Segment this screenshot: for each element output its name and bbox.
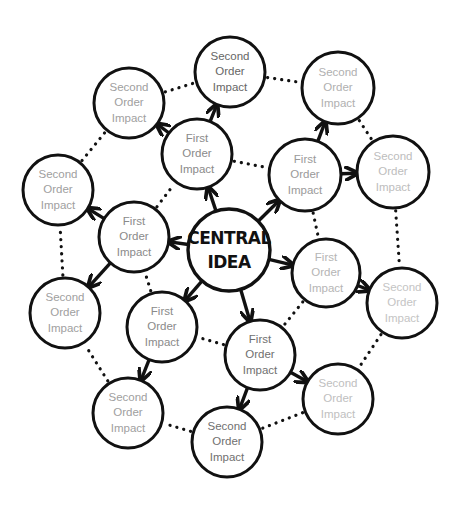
- arrow-icon: [141, 360, 149, 380]
- node-label-line: Order: [378, 165, 408, 177]
- second-order-node-s-right: SecondOrderImpact: [367, 268, 437, 338]
- node-label-line: Impact: [111, 422, 146, 434]
- second-order-node-s-right-upper: SecondOrderImpact: [357, 136, 429, 208]
- node-label-line: Order: [113, 406, 143, 418]
- dotted-link-s-right-upper-s-right: [396, 211, 400, 265]
- node-label-line: Second: [207, 420, 246, 432]
- dotted-link-s-bottom-s-bottom-left: [164, 424, 190, 432]
- nodes: CENTRALIDEAFirstOrderImpactFirstOrderImp…: [23, 37, 437, 477]
- dotted-link-f-lower-left-f-left: [145, 273, 150, 290]
- node-label-line: Order: [43, 183, 73, 195]
- node-label-line: First: [315, 251, 338, 263]
- node-label-line: Order: [323, 81, 353, 93]
- node-label-line: Impact: [210, 451, 245, 463]
- dotted-link-f-left-f-upper-left: [157, 184, 174, 206]
- node-label-line: Second: [45, 291, 84, 303]
- arrow-icon: [290, 372, 306, 381]
- node-label-line: Order: [114, 96, 144, 108]
- node-circle: [188, 209, 270, 291]
- arrow-icon: [318, 123, 325, 142]
- node-label-line: Second: [108, 391, 147, 403]
- node-label-line: Order: [311, 266, 341, 278]
- node-label-line: First: [249, 333, 272, 345]
- node-label-line: Second: [109, 81, 148, 93]
- second-order-node-s-lower-left: SecondOrderImpact: [30, 278, 100, 348]
- node-label-line: Impact: [41, 199, 76, 211]
- first-order-node-f-left: FirstOrderImpact: [99, 202, 169, 272]
- node-label-line: First: [186, 132, 209, 144]
- first-order-node-f-lower-left: FirstOrderImpact: [127, 292, 197, 362]
- node-label-line: Order: [245, 348, 275, 360]
- node-label-line: Order: [50, 306, 80, 318]
- arrow-icon: [158, 125, 169, 133]
- mind-map-diagram: CENTRALIDEAFirstOrderImpactFirstOrderImp…: [0, 0, 459, 510]
- node-label-line: Second: [373, 150, 412, 162]
- central-node-central: CENTRALIDEA: [187, 209, 271, 291]
- dotted-link-s-lower-left-s-left: [60, 228, 63, 275]
- dotted-link-s-upper-left-s-top: [165, 83, 193, 92]
- node-label-line: CENTRAL: [187, 228, 271, 248]
- node-label-line: First: [294, 153, 317, 165]
- node-label-line: Impact: [145, 336, 180, 348]
- arrow-icon: [89, 209, 105, 219]
- second-order-node-s-upper-right: SecondOrderImpact: [302, 52, 374, 124]
- node-label-line: Impact: [117, 246, 152, 258]
- node-label-line: Impact: [321, 408, 356, 420]
- node-label-line: Order: [182, 147, 212, 159]
- arrow-icon: [358, 285, 369, 289]
- first-order-node-f-upper-right: FirstOrderImpact: [269, 139, 341, 211]
- second-order-node-s-upper-left: SecondOrderImpact: [94, 68, 164, 138]
- second-order-node-s-bottom-left: SecondOrderImpact: [93, 378, 163, 448]
- node-label-line: Second: [318, 66, 357, 78]
- node-label-line: Impact: [321, 97, 356, 109]
- dotted-link-s-bottom-left-s-lower-left: [85, 345, 107, 381]
- node-label-line: Impact: [376, 181, 411, 193]
- node-label-line: IDEA: [207, 252, 252, 272]
- arrow-icon: [210, 105, 216, 121]
- node-label-line: Impact: [180, 163, 215, 175]
- node-label-line: Order: [323, 392, 353, 404]
- node-label-line: Impact: [112, 112, 147, 124]
- node-label-line: Second: [38, 168, 77, 180]
- arrow-icon: [186, 281, 202, 300]
- node-label-line: First: [151, 305, 174, 317]
- node-label-line: Second: [318, 377, 357, 389]
- dotted-link-s-upper-right-s-right-upper: [359, 121, 371, 140]
- dotted-link-s-top-s-upper-right: [268, 78, 300, 83]
- dotted-link-f-right-f-bottom: [284, 302, 303, 326]
- dotted-link-s-right-s-bottom-right: [359, 335, 381, 368]
- first-order-node-f-bottom: FirstOrderImpact: [225, 320, 295, 390]
- dotted-link-f-upper-left-f-upper-right: [234, 161, 266, 167]
- node-label-line: Second: [382, 281, 421, 293]
- arrow-icon: [341, 173, 356, 174]
- node-label-line: Order: [147, 320, 177, 332]
- arrow-icon: [269, 259, 292, 264]
- dotted-link-s-bottom-right-s-bottom: [262, 413, 302, 429]
- node-label-line: Impact: [243, 364, 278, 376]
- second-order-node-s-top: SecondOrderImpact: [195, 37, 265, 107]
- node-label-line: Second: [210, 50, 249, 62]
- node-label-line: Order: [290, 168, 320, 180]
- node-label-line: Order: [387, 296, 417, 308]
- node-label-line: Impact: [385, 312, 420, 324]
- node-label-line: Impact: [48, 322, 83, 334]
- first-order-node-f-upper-left: FirstOrderImpact: [162, 119, 232, 189]
- arrow-icon: [241, 289, 250, 320]
- node-label-line: Impact: [213, 81, 248, 93]
- arrow-icon: [170, 242, 189, 245]
- arrow-icon: [240, 388, 248, 409]
- node-label-line: Order: [119, 230, 149, 242]
- node-label-line: Impact: [288, 184, 323, 196]
- second-order-node-s-bottom-right: SecondOrderImpact: [303, 364, 373, 434]
- dotted-link-f-upper-right-f-right: [313, 213, 318, 237]
- first-order-node-f-right: FirstOrderImpact: [292, 239, 360, 307]
- node-label-line: Order: [215, 65, 245, 77]
- second-order-node-s-left: SecondOrderImpact: [23, 155, 93, 225]
- dotted-link-f-bottom-f-lower-left: [199, 337, 224, 344]
- node-label-line: First: [123, 215, 146, 227]
- arrow-icon: [258, 201, 278, 221]
- node-label-line: Order: [212, 435, 242, 447]
- second-order-node-s-bottom: SecondOrderImpact: [192, 407, 262, 477]
- arrow-icon: [208, 188, 216, 211]
- dotted-link-s-left-s-upper-left: [82, 132, 105, 160]
